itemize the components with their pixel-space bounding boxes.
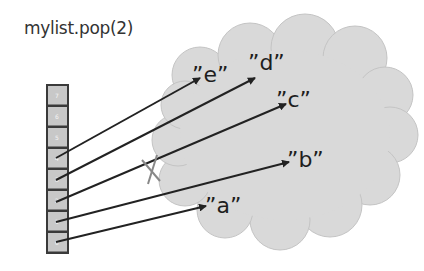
string-e: ”e”: [192, 62, 228, 87]
diagram-canvas: 7 6 5 4 3 2 1 0 ”e” ”d” ”c” ”b” ”a”: [0, 0, 424, 271]
arrow-a: [56, 206, 206, 242]
heap-cloud: [152, 14, 418, 250]
string-b: ”b”: [287, 147, 324, 172]
svg-text:7: 7: [55, 92, 59, 99]
string-a: ”a”: [205, 193, 241, 218]
string-c: ”c”: [276, 87, 311, 112]
svg-text:5: 5: [55, 134, 59, 141]
svg-text:6: 6: [55, 113, 59, 120]
list-cell-6: 6: [48, 107, 67, 126]
list-cell-5: 5: [48, 128, 67, 147]
string-d: ”d”: [248, 50, 285, 75]
list-cell-2: 2: [48, 191, 67, 210]
list-stack: 7 6 5 4 3 2 1 0: [46, 84, 69, 254]
list-cell-7: 7: [48, 86, 67, 105]
